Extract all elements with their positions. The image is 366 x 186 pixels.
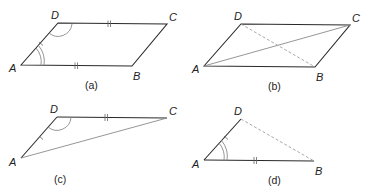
angle-a-arc-1 [219, 143, 224, 161]
side-ab [204, 160, 314, 161]
diagonal-db [241, 24, 315, 67]
vertex-label-a: A [191, 158, 199, 170]
vertex-label-d: D [234, 105, 242, 117]
vertex-label-c: C [352, 12, 360, 24]
panel-c: A D C (c) [8, 103, 177, 185]
side-db [241, 119, 314, 161]
side-ad [204, 119, 241, 160]
vertex-label-d: D [51, 9, 59, 21]
caption-d: (d) [268, 174, 281, 186]
vertex-label-b: B [315, 165, 322, 177]
panel-a: A D C B (a) [8, 9, 177, 91]
side-ac [21, 118, 167, 158]
side-dc [57, 117, 167, 118]
vertex-label-c: C [169, 105, 177, 117]
caption-c: (c) [54, 173, 66, 185]
vertex-label-c: C [169, 11, 177, 23]
caption-a: (a) [85, 79, 98, 91]
angle-a-arc-1 [36, 48, 41, 66]
diagonal-ac [204, 25, 350, 66]
angle-d-arc [49, 24, 72, 36]
caption-b: (b) [268, 80, 281, 92]
vertex-label-a: A [8, 156, 16, 168]
panel-b: A D C B (b) [191, 10, 360, 92]
panel-d: A D B (d) [191, 105, 322, 186]
parallelogram-diagram: A D C B (a) A D C B (b) A D C (c) [0, 0, 366, 186]
vertex-label-b: B [133, 70, 140, 82]
vertex-label-d: D [234, 10, 242, 22]
side-ad [21, 117, 57, 158]
vertex-label-a: A [8, 62, 16, 74]
vertex-label-d: D [50, 103, 58, 115]
parallelogram-abcd [21, 23, 167, 66]
vertex-label-b: B [316, 71, 323, 83]
tick-ad [39, 136, 43, 140]
vertex-label-a: A [191, 63, 199, 75]
